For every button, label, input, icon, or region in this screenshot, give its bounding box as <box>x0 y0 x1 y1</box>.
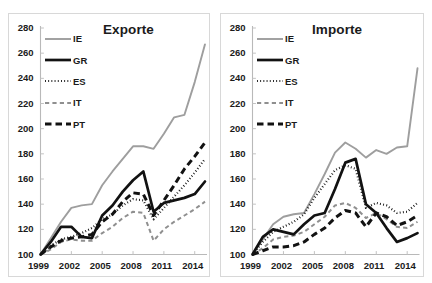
series-line-pt <box>253 210 418 254</box>
y-axis-tick-label: 160 <box>8 173 34 184</box>
y-axis-tick-label: 160 <box>220 173 246 184</box>
y-axis-tick-label: 120 <box>8 223 34 234</box>
y-axis-tick-label: 100 <box>8 249 34 260</box>
legend-item-pt[interactable]: PT <box>44 114 87 135</box>
y-axis-tick-label: 200 <box>8 123 34 134</box>
legend-label: ES <box>285 76 298 87</box>
legend-swatch-it-icon <box>256 98 284 108</box>
legend-item-it[interactable]: IT <box>44 92 87 113</box>
y-axis-tick-label: 280 <box>220 22 246 33</box>
legend-swatch-es-icon <box>44 76 72 86</box>
chart-plot-exporte <box>0 0 216 283</box>
x-axis-tick-label: 2005 <box>90 260 111 271</box>
y-axis-tick-label: 240 <box>220 72 246 83</box>
legend-item-es[interactable]: ES <box>44 71 87 92</box>
x-axis-tick-label: 1999 <box>28 260 49 271</box>
chart-panel-importe: Importe IEGRESITPT 280260240220200180160… <box>216 0 432 283</box>
y-axis-tick-label: 220 <box>220 98 246 109</box>
series-line-gr <box>41 171 206 254</box>
legend-label: IT <box>285 97 293 108</box>
legend-swatch-es-icon <box>256 76 284 86</box>
y-axis-tick-label: 120 <box>220 223 246 234</box>
series-line-es <box>41 159 206 255</box>
y-axis-tick-label: 100 <box>220 249 246 260</box>
chart-legend-exporte: IEGRESITPT <box>44 28 87 135</box>
legend-label: ES <box>73 76 86 87</box>
chart-panel-exporte: Exporte IEGRESITPT 280260240220200180160… <box>0 0 216 283</box>
legend-label: PT <box>73 119 85 130</box>
chart-legend-importe: IEGRESITPT <box>256 28 299 135</box>
legend-label: IE <box>285 33 294 44</box>
x-axis-tick-label: 1999 <box>240 260 261 271</box>
legend-swatch-gr-icon <box>256 55 284 65</box>
legend-item-gr[interactable]: GR <box>44 49 87 70</box>
x-axis-tick-label: 2008 <box>121 260 142 271</box>
legend-item-pt[interactable]: PT <box>256 114 299 135</box>
legend-item-ie[interactable]: IE <box>44 28 87 49</box>
x-axis-tick-label: 2002 <box>271 260 292 271</box>
legend-label: GR <box>73 55 87 66</box>
legend-label: IT <box>73 97 81 108</box>
legend-swatch-it-icon <box>44 98 72 108</box>
legend-item-gr[interactable]: GR <box>256 49 299 70</box>
legend-item-ie[interactable]: IE <box>256 28 299 49</box>
x-axis-tick-label: 2008 <box>333 260 354 271</box>
x-axis-tick-label: 2011 <box>151 260 172 271</box>
legend-label: IE <box>73 33 82 44</box>
y-axis-tick-label: 200 <box>220 123 246 134</box>
x-axis-tick-label: 2005 <box>302 260 323 271</box>
figure-container: Exporte IEGRESITPT 280260240220200180160… <box>0 0 432 283</box>
legend-swatch-gr-icon <box>44 55 72 65</box>
legend-item-es[interactable]: ES <box>256 71 299 92</box>
y-axis-tick-label: 260 <box>8 47 34 58</box>
y-axis-tick-label: 240 <box>8 72 34 83</box>
y-axis-tick-label: 140 <box>8 198 34 209</box>
y-axis-tick-label: 180 <box>8 148 34 159</box>
chart-plot-importe <box>216 0 432 283</box>
x-axis-tick-label: 2011 <box>364 260 385 271</box>
y-axis-tick-label: 260 <box>220 47 246 58</box>
y-axis-tick-label: 140 <box>220 198 246 209</box>
legend-swatch-pt-icon <box>256 119 284 129</box>
legend-swatch-ie-icon <box>44 34 72 44</box>
x-axis-tick-label: 2014 <box>395 260 416 271</box>
legend-item-it[interactable]: IT <box>256 92 299 113</box>
legend-swatch-pt-icon <box>44 119 72 129</box>
legend-label: PT <box>285 119 297 130</box>
y-axis-tick-label: 180 <box>220 148 246 159</box>
y-axis-tick-label: 220 <box>8 98 34 109</box>
x-axis-tick-label: 2002 <box>59 260 80 271</box>
x-axis-tick-label: 2014 <box>182 260 203 271</box>
y-axis-tick-label: 280 <box>8 22 34 33</box>
legend-label: GR <box>285 55 299 66</box>
series-line-es <box>253 165 418 254</box>
legend-swatch-ie-icon <box>256 34 284 44</box>
